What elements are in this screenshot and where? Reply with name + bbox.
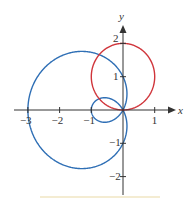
x-tick-label: −2 xyxy=(52,114,64,126)
y-tick-label: 1 xyxy=(113,70,119,82)
y-tick-label: −2 xyxy=(109,170,121,182)
y-tick-label: 2 xyxy=(113,32,119,44)
bottom-band xyxy=(40,196,160,198)
x-tick-label: −3 xyxy=(20,114,32,126)
x-tick-label: −1 xyxy=(83,114,95,126)
x-axis xyxy=(14,107,176,114)
polar-plot: −3−2−1121−1−2 x y xyxy=(0,0,191,200)
y-axis-arrow-icon xyxy=(120,25,127,33)
x-tick-label: 1 xyxy=(152,114,158,126)
x-axis-arrow-icon xyxy=(168,107,176,114)
x-axis-label: x xyxy=(177,104,183,116)
y-axis-label: y xyxy=(118,10,124,22)
y-tick-label: −1 xyxy=(109,136,121,148)
